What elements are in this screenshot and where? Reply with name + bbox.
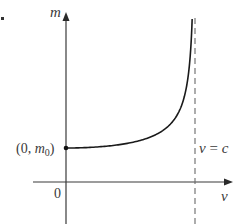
y-axis-label: m	[50, 4, 61, 20]
point-label-prefix: (0,	[16, 141, 35, 157]
asymptote-label-c: c	[222, 140, 229, 156]
graph-canvas: m v 0 (0, m0) v = c	[0, 0, 244, 224]
relativistic-mass-graph: m v 0 (0, m0) v = c	[0, 0, 244, 224]
initial-mass-point	[64, 146, 69, 151]
initial-mass-label: (0, m0)	[16, 141, 55, 158]
mass-curve	[66, 19, 192, 148]
y-axis-arrow-icon	[63, 12, 70, 21]
point-label-m: m	[35, 141, 45, 156]
asymptote-label-eq: =	[206, 140, 222, 156]
point-label-suffix: )	[50, 141, 55, 157]
figure-marker	[1, 17, 4, 20]
x-axis-arrow-icon	[224, 179, 233, 186]
origin-label: 0	[54, 186, 61, 201]
asymptote-label: v = c	[199, 140, 229, 156]
x-axis-label: v	[221, 188, 228, 204]
